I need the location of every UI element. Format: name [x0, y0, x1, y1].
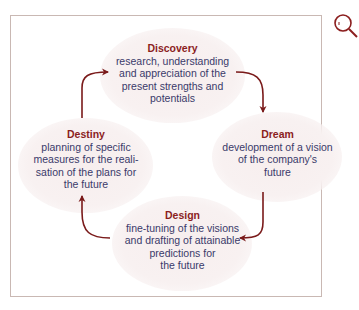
- magnifier-icon: [333, 13, 359, 39]
- arrow-discovery-to-dream: [236, 72, 263, 112]
- arrow-dream-to-design: [240, 192, 263, 238]
- arrow-design-to-destiny: [82, 196, 110, 238]
- cycle-arrows: [0, 0, 359, 310]
- arrow-destiny-to-discovery: [82, 72, 108, 118]
